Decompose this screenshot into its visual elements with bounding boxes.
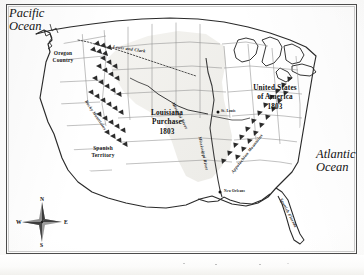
label-st-louis: St. Louis [221,109,235,113]
label-spanish-territory: Spanish Territory [83,145,123,159]
label-pacific-ocean: Pacific Ocean [9,7,44,33]
pacific-ocean-line2: Ocean [9,20,44,33]
oregon-country-line2: Country [46,57,80,64]
united-states-line2: of America [243,93,307,102]
historical-map-figure: Pacific Ocean Atlantic Ocean Oregon Coun… [0,0,364,275]
louisiana-purchase-line1: Louisiana [139,109,195,118]
compass-rose-star [22,202,62,242]
oregon-country-line1: Oregon [46,50,80,57]
label-atlantic-ocean: Atlantic Ocean [316,148,356,174]
scan-speckles [120,261,320,267]
atlantic-ocean-line2: Ocean [316,161,356,174]
united-states-year: 1803 [243,103,307,112]
united-states-line1: United States [243,84,307,93]
map-artwork [0,0,364,275]
compass-west-letter: W [16,219,22,225]
label-new-orleans: New Orleans [224,189,245,193]
label-oregon-country: Oregon Country [46,50,80,64]
st-louis-dot [217,111,220,114]
label-united-states: United States of America 1803 [243,84,307,112]
compass-east-letter: E [64,219,68,225]
spanish-territory-line2: Territory [83,152,123,159]
spanish-territory-line1: Spanish [83,145,123,152]
compass-north-letter: N [40,196,44,202]
compass-south-letter: S [40,242,43,248]
new-orleans-dot [219,191,222,194]
